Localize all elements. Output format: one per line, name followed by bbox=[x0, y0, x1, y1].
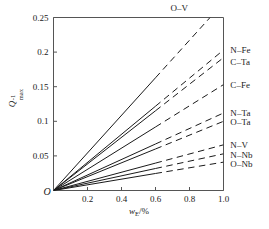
series-label-n-fe: N–Fe bbox=[230, 45, 250, 55]
series-line-dashed-n-nb bbox=[156, 154, 224, 169]
x-axis-title-unit: /% bbox=[139, 206, 149, 216]
series-line-solid-o-nb bbox=[54, 173, 156, 190]
series-label-n-v: N–V bbox=[230, 140, 248, 150]
y-axis-title: Q-1max bbox=[7, 101, 17, 108]
y-tick-label: 0.05 bbox=[0, 151, 49, 161]
y-axis-title-superscript: -1 bbox=[9, 95, 16, 100]
axes-frame bbox=[54, 18, 224, 191]
x-tick-label: 0.2 bbox=[82, 194, 93, 204]
y-tick-label: 0.1 bbox=[0, 116, 49, 126]
series-label-o-ta: O–Ta bbox=[230, 117, 250, 127]
x-axis-title: wE/% bbox=[129, 206, 149, 217]
series-line-dashed-n-v bbox=[156, 145, 224, 163]
axis-ticks bbox=[54, 18, 224, 191]
series-line-dashed-o-ta bbox=[156, 121, 224, 149]
series-line-dashed-n-fe bbox=[156, 50, 224, 106]
series-label-c-fe: C–Fe bbox=[230, 80, 250, 90]
x-tick-label: 0.8 bbox=[184, 194, 195, 204]
series-line-solid-n-fe bbox=[54, 106, 156, 190]
origin-label: O bbox=[44, 186, 51, 197]
y-axis-title-symbol: Q bbox=[7, 101, 17, 108]
series-line-solid-c-fe bbox=[54, 127, 156, 191]
y-tick-label: 0.25 bbox=[0, 13, 49, 23]
series-lines bbox=[54, 18, 224, 191]
series-label-o-v: O–V bbox=[170, 3, 188, 13]
y-tick-label: 0.2 bbox=[0, 47, 49, 57]
x-tick-label: 1.0 bbox=[218, 194, 229, 204]
series-label-c-ta: C–Ta bbox=[230, 57, 250, 67]
series-line-solid-n-nb bbox=[54, 168, 156, 190]
series-line-dashed-o-nb bbox=[156, 162, 224, 173]
y-tick-label: 0.15 bbox=[0, 82, 49, 92]
series-label-o-nb: O–Nb bbox=[230, 159, 252, 169]
series-line-dashed-o-v bbox=[156, 18, 211, 78]
series-line-dashed-c-fe bbox=[156, 85, 224, 127]
series-line-dashed-c-ta bbox=[156, 58, 224, 111]
series-line-dashed-n-ta bbox=[156, 113, 224, 144]
figure-container: 0.20.40.60.81.00.050.10.150.20.25O–VN–Fe… bbox=[0, 0, 269, 229]
series-line-solid-o-ta bbox=[54, 149, 156, 191]
x-tick-label: 0.4 bbox=[116, 194, 127, 204]
series-line-solid-o-v bbox=[54, 78, 156, 191]
x-tick-label: 0.6 bbox=[150, 194, 161, 204]
y-axis-title-subscript: max bbox=[17, 89, 24, 100]
